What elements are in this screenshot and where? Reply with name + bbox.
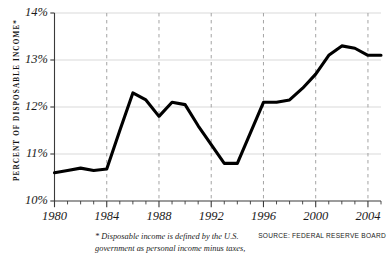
x-tick-label-1996: 1996 (240, 210, 286, 223)
x-tick-label-2000: 2000 (293, 210, 339, 223)
x-tick-label-1992: 1992 (188, 210, 234, 223)
footnote-text: * Disposable income is defined by the U.… (95, 231, 275, 254)
x-tick-label-2004: 2004 (345, 210, 391, 223)
x-tick-label-1988: 1988 (136, 210, 182, 223)
x-tick-label-1984: 1984 (84, 210, 130, 223)
x-tick-label-1980: 1980 (32, 210, 78, 223)
source-credit: SOURCE: FEDERAL RESERVE BOARD (250, 232, 386, 239)
